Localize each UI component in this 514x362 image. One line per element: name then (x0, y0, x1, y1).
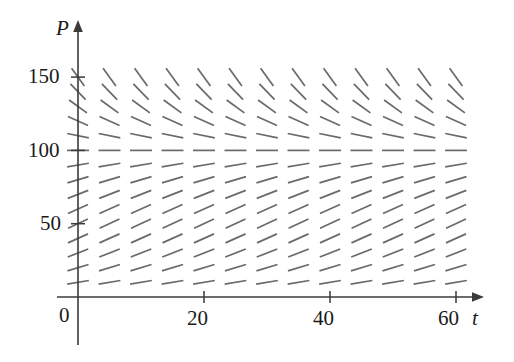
slope-segment (414, 265, 435, 271)
slope-segment (162, 234, 182, 243)
slope-segment (225, 117, 245, 126)
slope-segment (351, 117, 371, 126)
slope-segment (103, 68, 116, 86)
slope-segment (387, 68, 400, 86)
slope-segment (288, 249, 308, 257)
slope-segment (385, 84, 400, 100)
slope-segment (193, 177, 214, 183)
slope-segment (415, 219, 435, 228)
y-tick-label-50: 50 (40, 213, 61, 234)
slope-segment (384, 100, 402, 113)
slope-segment (130, 265, 151, 271)
slope-segment (383, 249, 403, 257)
slope-segment (288, 281, 310, 285)
slope-segment (102, 84, 117, 100)
slope-segment (382, 281, 404, 285)
slope-segment (288, 190, 308, 198)
slope-segment (383, 205, 403, 214)
slope-segment (319, 265, 340, 271)
slope-segment (288, 134, 310, 138)
slope-segment (99, 134, 121, 138)
slope-segment (320, 234, 340, 243)
slope-segment (383, 234, 403, 243)
slope-segment (225, 281, 247, 285)
slope-segment (132, 100, 150, 113)
slope-segment (445, 281, 467, 285)
slope-segment (324, 68, 337, 86)
slope-segment (99, 265, 120, 271)
slope-segment (130, 177, 151, 183)
slope-segment (130, 281, 152, 285)
slope-segment (130, 134, 152, 138)
slope-segment (99, 163, 121, 167)
slope-segment (256, 281, 278, 285)
slope-field-figure: P t 150 100 50 0 20 40 60 (0, 0, 514, 362)
slope-segment (288, 234, 308, 243)
slope-segment (353, 100, 371, 113)
slope-segment (99, 117, 119, 126)
x-tick-label-0: 0 (59, 305, 70, 326)
slope-segment (99, 281, 121, 285)
slope-segment (225, 205, 245, 214)
slope-segment (351, 134, 373, 138)
slope-segment (418, 68, 431, 86)
y-tick-label-100: 100 (28, 140, 60, 161)
slope-segment (445, 177, 466, 183)
slope-segment (225, 234, 245, 243)
slope-segment (446, 205, 466, 214)
slope-segment (163, 219, 183, 228)
slope-segment (194, 205, 214, 214)
slope-segment (162, 205, 182, 214)
slope-segment (290, 100, 308, 113)
slope-segment (321, 100, 339, 113)
slope-segment (131, 219, 151, 228)
slope-segment (166, 68, 179, 86)
slope-segment (414, 190, 434, 198)
slope-segment (193, 134, 215, 138)
slope-segment (162, 134, 184, 138)
slope-segment (382, 134, 404, 138)
slope-segment (99, 249, 119, 257)
slope-segment (261, 68, 274, 86)
slope-segment (193, 163, 215, 167)
slope-segment (226, 219, 246, 228)
slope-segment (162, 281, 184, 285)
slope-segment (135, 68, 148, 86)
slope-segment (289, 219, 309, 228)
slope-segment (414, 163, 436, 167)
slope-segment (382, 265, 403, 271)
axis-group (57, 20, 484, 345)
slope-segment (131, 190, 151, 198)
slope-segment (225, 177, 246, 183)
slope-segment (414, 281, 436, 285)
slope-segment (194, 190, 214, 198)
slope-segment (131, 205, 151, 214)
slope-segment (322, 84, 337, 100)
x-axis-arrowhead (472, 292, 484, 302)
y-axis-arrowhead (73, 20, 83, 32)
slope-segment (414, 117, 434, 126)
slope-segment (446, 249, 466, 257)
slope-segment (292, 68, 305, 86)
slope-segment (414, 177, 435, 183)
slope-segment (99, 234, 119, 243)
slope-segment (351, 163, 373, 167)
slope-segment (131, 234, 151, 243)
slope-segment (256, 163, 278, 167)
slope-segment (257, 234, 277, 243)
slope-segment (291, 84, 306, 100)
slope-segment (162, 177, 183, 183)
slope-segment (225, 265, 246, 271)
slope-segment (414, 134, 436, 138)
slope-segment (445, 265, 466, 271)
slope-segment (100, 219, 120, 228)
slope-segment (162, 190, 182, 198)
slope-segment (225, 249, 245, 257)
slope-segment (228, 84, 243, 100)
slope-segment (445, 134, 467, 138)
slope-segment (257, 249, 277, 257)
slope-segment (351, 249, 371, 257)
slope-segment (131, 249, 151, 257)
slope-segment (319, 177, 340, 183)
slope-segment (133, 84, 148, 100)
